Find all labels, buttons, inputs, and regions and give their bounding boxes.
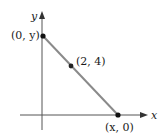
diagram-canvas: y x (0, y) (2, 4) (x, 0) xyxy=(0,0,167,136)
y-axis-arrow-icon xyxy=(39,11,45,19)
y-axis-label: y xyxy=(30,10,38,23)
x-axis-arrow-icon xyxy=(140,112,148,118)
line-segment xyxy=(43,36,118,115)
point-label-2-4: (2, 4) xyxy=(76,55,106,68)
point-x-intercept xyxy=(115,112,120,117)
point-y-intercept xyxy=(40,33,45,38)
point-label-x-intercept: (x, 0) xyxy=(105,121,134,134)
x-axis-label: x xyxy=(151,109,158,122)
point-label-y-intercept: (0, y) xyxy=(11,29,40,42)
point-2-4 xyxy=(69,64,74,69)
